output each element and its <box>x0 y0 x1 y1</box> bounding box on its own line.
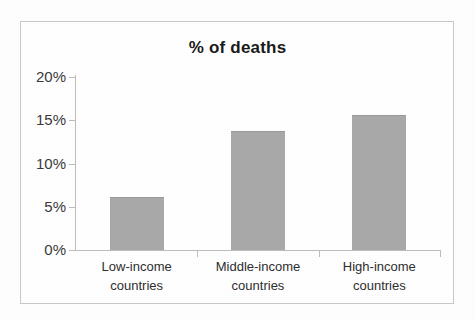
x-category-label-line: countries <box>197 277 318 296</box>
x-axis-category-labels: Low-incomecountriesMiddle-incomecountrie… <box>76 258 440 302</box>
bar <box>110 197 164 250</box>
x-category-label-line: High-income <box>319 258 440 277</box>
x-axis-separator-tick <box>319 250 320 257</box>
x-category-label-line: countries <box>76 277 197 296</box>
x-category-label: Middle-incomecountries <box>197 258 318 296</box>
scanned-page: % of deaths 0%5%10%15%20% Low-incomecoun… <box>0 0 475 320</box>
x-category-label: Low-incomecountries <box>76 258 197 296</box>
y-tick-mark <box>69 207 76 208</box>
y-tick-mark <box>69 250 76 251</box>
x-category-label-line: Middle-income <box>197 258 318 277</box>
x-axis-line <box>76 250 440 251</box>
y-tick-mark <box>69 164 76 165</box>
x-category-label-line: Low-income <box>76 258 197 277</box>
y-tick-label: 5% <box>22 199 66 214</box>
y-tick-label: 0% <box>22 242 66 257</box>
y-axis-labels: 0%5%10%15%20% <box>20 0 66 320</box>
y-tick-label: 10% <box>22 156 66 171</box>
y-tick-label: 20% <box>22 69 66 84</box>
x-axis-separator-tick <box>440 250 441 257</box>
x-category-label: High-incomecountries <box>319 258 440 296</box>
x-axis-separator-tick <box>197 250 198 257</box>
x-category-label-line: countries <box>319 277 440 296</box>
bar <box>231 131 285 250</box>
y-tick-mark <box>69 120 76 121</box>
y-tick-mark <box>69 77 76 78</box>
chart-title: % of deaths <box>0 38 475 58</box>
plot-area <box>76 77 440 250</box>
bar <box>352 115 406 250</box>
y-tick-label: 15% <box>22 112 66 127</box>
